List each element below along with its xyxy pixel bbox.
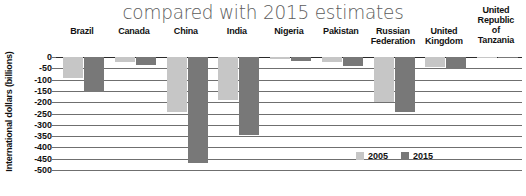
y-axis-tick-label: -200 [20,97,52,107]
bar-group: Canada [108,57,160,170]
bars [263,57,315,170]
bar-2015[interactable] [188,57,208,163]
bar-2005[interactable] [218,57,238,100]
bar-group-label: United Kingdom [420,26,469,46]
bar-group: China [160,57,212,170]
legend-item[interactable]: 2005 [356,151,389,161]
bar-group: Brazil [56,57,108,170]
legend-item[interactable]: 2015 [401,151,434,161]
plot-area: BrazilCanadaChinaIndiaNigeriaPakistanRus… [56,57,522,170]
bar-group-label: Pakistan [316,26,365,36]
y-axis-tick-label: -250 [20,109,52,119]
bar-group-label: Brazil [57,26,106,36]
y-axis-tick-label: -400 [20,142,52,152]
bars [160,57,212,170]
bar-2005[interactable] [322,57,342,62]
y-axis-tick-label: -300 [20,120,52,130]
legend-label: 2015 [413,151,433,161]
bar-2015[interactable] [136,57,156,65]
bar-2005[interactable] [270,57,290,59]
y-axis-tick-labels: 0-50-100-150-200-250-300-350-400-450-500 [14,57,52,170]
y-axis-tick-label: -350 [20,131,52,141]
bar-group: Nigeria [263,57,315,170]
legend-label: 2005 [368,151,388,161]
bar-2015[interactable] [446,57,466,69]
bar-group-label: Nigeria [264,26,313,36]
y-axis-tick-label: 0 [20,52,52,62]
bar-group-label: India [213,26,262,36]
legend-swatch-icon [401,152,409,160]
chart-figure: compared with 2015 estimates Internation… [0,0,526,196]
bar-2015[interactable] [291,57,311,61]
chart-legend: 20052015 [356,150,434,162]
bar-2005[interactable] [63,57,83,78]
y-axis-tick-label: -450 [20,154,52,164]
bar-2015[interactable] [498,57,518,58]
y-axis-title-text: International dollars (billions) [3,51,14,171]
bar-2015[interactable] [343,57,363,66]
bars [211,57,263,170]
bar-group-label: United Republic of Tanzania [472,5,521,45]
y-axis-tick-label: -100 [20,75,52,85]
bar-2005[interactable] [374,57,394,102]
bar-2015[interactable] [239,57,259,135]
gridline [56,170,522,171]
y-axis-tick-label: -150 [20,86,52,96]
bar-group: United Republic of Tanzania [470,57,522,170]
y-axis-tick-label: -500 [20,165,52,175]
bar-2005[interactable] [167,57,187,112]
bar-group-label: China [161,26,210,36]
bar-2005[interactable] [115,57,135,62]
bar-group: India [211,57,263,170]
bars [470,57,522,170]
bar-group-label: Canada [109,26,158,36]
y-axis-tick-label: -50 [20,63,52,73]
bar-2015[interactable] [84,57,104,92]
chart-title: compared with 2015 estimates [21,0,505,26]
bar-2015[interactable] [395,57,415,112]
bar-group-label: Russian Federation [368,26,417,46]
bar-2005[interactable] [477,57,497,58]
bar-2005[interactable] [425,57,445,67]
bars [108,57,160,170]
legend-swatch-icon [356,152,364,160]
bars [56,57,108,170]
